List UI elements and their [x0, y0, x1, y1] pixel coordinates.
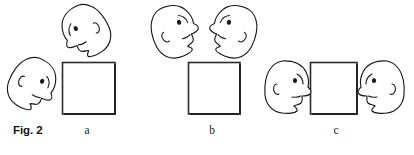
face-c-left — [265, 61, 311, 114]
square-a-shadow-bottom — [64, 113, 116, 115]
panel-b — [144, 0, 265, 115]
figure-drawing — [0, 0, 414, 155]
square-b-shadow — [239, 64, 241, 115]
panel-a — [1, 0, 118, 118]
square-a — [63, 63, 116, 115]
face-c-right — [358, 61, 404, 114]
face-b-right — [202, 0, 265, 64]
square-c — [311, 63, 358, 115]
face-a-upper — [52, 0, 118, 65]
figure-container: Fig. 2 a b c — [0, 0, 414, 155]
square-b-shadow-bottom — [190, 113, 241, 115]
panel-c — [265, 61, 405, 115]
square-b — [189, 63, 241, 115]
square-a-shadow — [114, 64, 116, 115]
face-b-left — [144, 0, 207, 64]
square-c-shadow-bottom — [312, 113, 358, 115]
square-c-shadow — [356, 64, 358, 115]
face-a-lower-left — [1, 50, 66, 118]
